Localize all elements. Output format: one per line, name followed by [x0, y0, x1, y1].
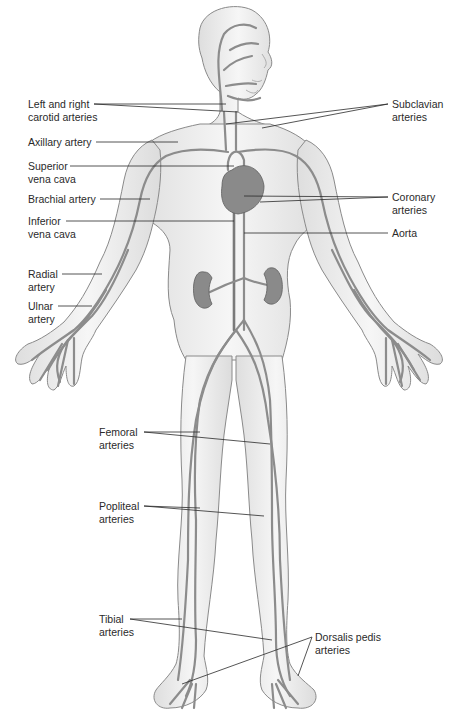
label-line: Popliteal [99, 500, 139, 513]
label-radial-artery: Radial artery [28, 268, 58, 294]
label-axillary-artery: Axillary artery [28, 136, 92, 149]
label-tibial-arteries: Tibial arteries [99, 613, 134, 639]
right-leg [154, 356, 232, 708]
label-line: Subclavian [392, 98, 443, 111]
label-line: arteries [392, 111, 443, 124]
label-femoral-arteries: Femoral arteries [99, 426, 138, 452]
label-line: Axillary artery [28, 136, 92, 149]
label-line: Brachial artery [28, 193, 96, 206]
label-line: arteries [315, 644, 381, 657]
label-line: vena cava [28, 228, 76, 241]
label-popliteal-arteries: Popliteal arteries [99, 500, 139, 526]
label-subclavian-arteries: Subclavian arteries [392, 98, 443, 124]
label-line: artery [28, 281, 58, 294]
label-superior-vena-cava: Superior vena cava [28, 160, 76, 186]
label-line: Inferior [28, 215, 76, 228]
label-line: Ulnar [28, 300, 55, 313]
label-line: Superior [28, 160, 76, 173]
label-carotid-arteries: Left and right carotid arteries [28, 98, 97, 124]
label-line: carotid arteries [28, 111, 97, 124]
label-line: Radial [28, 268, 58, 281]
label-brachial-artery: Brachial artery [28, 193, 96, 206]
label-line: vena cava [28, 173, 76, 186]
label-line: artery [28, 313, 55, 326]
label-ulnar-artery: Ulnar artery [28, 300, 55, 326]
label-aorta: Aorta [392, 227, 417, 240]
label-line: arteries [99, 626, 134, 639]
label-line: arteries [392, 204, 435, 217]
label-line: Aorta [392, 227, 417, 240]
label-line: Tibial [99, 613, 134, 626]
label-inferior-vena-cava: Inferior vena cava [28, 215, 76, 241]
label-line: arteries [99, 439, 138, 452]
label-line: arteries [99, 513, 139, 526]
label-line: Dorsalis pedis [315, 631, 381, 644]
label-dorsalis-pedis-arteries: Dorsalis pedis arteries [315, 631, 381, 657]
label-line: Femoral [99, 426, 138, 439]
label-coronary-arteries: Coronary arteries [392, 191, 435, 217]
label-line: Coronary [392, 191, 435, 204]
label-line: Left and right [28, 98, 97, 111]
